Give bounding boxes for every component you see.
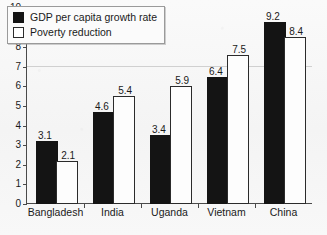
filled-square-icon (13, 12, 24, 23)
bar-value-label: 9.2 (266, 12, 280, 22)
bar-value-label: 7.5 (232, 45, 246, 55)
bar-poverty: 7.5 (227, 55, 249, 204)
bar-value-label: 2.1 (61, 151, 75, 161)
category-label: Vietnam (207, 207, 245, 218)
bar-gdp: 3.1 (36, 141, 58, 204)
bar-poverty: 2.1 (56, 161, 78, 204)
y-tick-mark (23, 204, 27, 205)
bar-value-label: 3.1 (38, 131, 52, 141)
bar-group: 9.28.4 (255, 8, 312, 204)
category-separator-tick (141, 204, 142, 208)
legend-label-gdp: GDP per capita growth rate (30, 12, 157, 23)
y-tick-label: 7 (15, 62, 21, 72)
bar-group: 6.47.5 (198, 8, 255, 204)
category-label: China (270, 207, 297, 218)
hollow-square-icon (13, 27, 24, 38)
legend-label-poverty: Poverty reduction (30, 27, 112, 38)
bar-value-label: 5.9 (175, 76, 189, 86)
y-tick-label: 0 (15, 199, 21, 209)
bar-gdp: 4.6 (93, 112, 115, 204)
bar-gdp: 9.2 (264, 22, 286, 204)
y-tick-label: 1 (15, 179, 21, 189)
category-separator-tick (84, 204, 85, 208)
bar-value-label: 4.6 (95, 102, 109, 112)
bar-value-label: 5.4 (118, 86, 132, 96)
y-tick-label: 4 (15, 121, 21, 131)
category-label: Uganda (151, 207, 188, 218)
category-label: Bangladesh (28, 207, 83, 218)
y-tick-label: 3 (15, 140, 21, 150)
bar-gdp: 6.4 (207, 77, 229, 204)
y-tick-label: 2 (15, 160, 21, 170)
legend-item-poverty: Poverty reduction (13, 25, 157, 40)
y-tick-label: 5 (15, 101, 21, 111)
category-label: India (101, 207, 124, 218)
category-separator-tick (198, 204, 199, 208)
y-tick-label: 6 (15, 81, 21, 91)
bar-poverty: 5.4 (113, 96, 135, 204)
bar-gdp: 3.4 (150, 135, 172, 204)
chart-legend: GDP per capita growth rate Poverty reduc… (7, 6, 165, 44)
bar-poverty: 5.9 (170, 86, 192, 204)
bar-value-label: 8.4 (289, 27, 303, 37)
bar-value-label: 3.4 (152, 125, 166, 135)
legend-item-gdp: GDP per capita growth rate (13, 10, 157, 25)
bar-poverty: 8.4 (284, 37, 306, 204)
category-separator-tick (255, 204, 256, 208)
bar-chart: 012345678910 3.12.14.65.43.45.96.47.59.2… (0, 0, 327, 235)
bar-value-label: 6.4 (209, 67, 223, 77)
